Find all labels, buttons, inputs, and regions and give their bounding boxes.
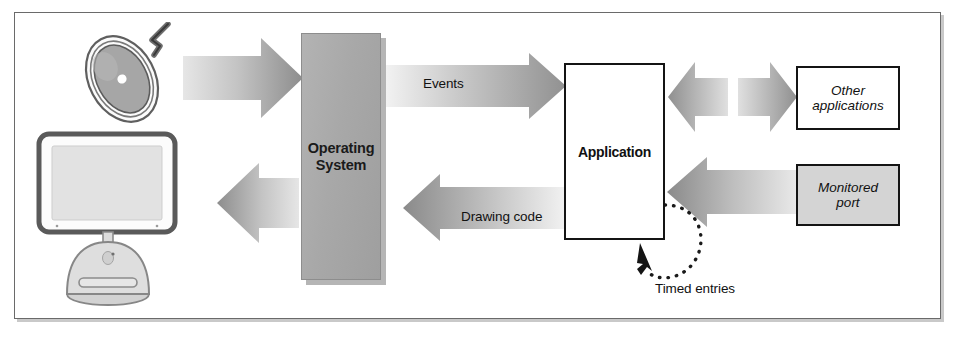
drawing-code-arrow-label: Drawing code [461, 209, 542, 224]
monitored-port-label: Monitored port [818, 180, 878, 210]
timed-entries-label: Timed entries [655, 281, 735, 296]
display-icon [35, 128, 185, 308]
monitored-port-block: Monitored port [796, 164, 900, 226]
operating-system-block: Operating System [301, 33, 381, 280]
operating-system-label: Operating System [308, 140, 375, 172]
application-block: Application [564, 63, 665, 240]
diagram-canvas: Operating System Application Other appli… [0, 0, 957, 338]
mouse-icon [72, 22, 184, 127]
events-arrow-label: Events [423, 76, 464, 91]
application-label: Application [578, 144, 651, 160]
other-applications-label: Other applications [812, 83, 883, 113]
other-applications-block: Other applications [796, 66, 900, 130]
